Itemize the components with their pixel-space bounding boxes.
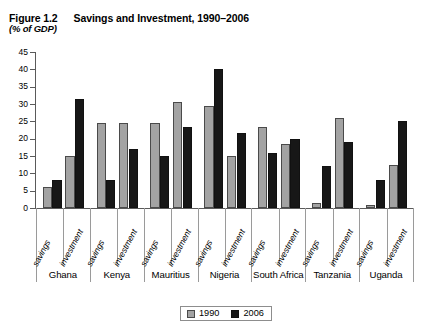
y-axis-tick-label: 15 [8, 152, 28, 161]
bar-1990 [204, 106, 213, 208]
bar-1990 [43, 187, 52, 208]
bar-2006 [268, 153, 277, 208]
legend-swatch-2006 [231, 310, 239, 318]
measure-label-investment: investment [165, 227, 193, 268]
y-axis-tick [30, 173, 35, 174]
bars-layer [36, 52, 413, 208]
bar-2006 [106, 180, 115, 208]
y-axis-tick-label: 30 [8, 100, 28, 109]
y-axis-tick-label-text: 10 [8, 169, 28, 178]
y-axis-tick-label-text: 15 [8, 152, 28, 161]
y-axis-tick [30, 104, 35, 105]
y-axis-tick [30, 52, 35, 53]
bar-2006 [376, 180, 385, 208]
group-label: Mauritius [144, 270, 198, 281]
group-label: Nigeria [198, 270, 252, 281]
y-axis-tick-label-text: 35 [8, 82, 28, 91]
y-axis-tick-label-text: 5 [8, 186, 28, 195]
bar-2006 [214, 69, 223, 208]
y-axis-tick-label: 10 [8, 169, 28, 178]
y-axis-tick [30, 208, 35, 209]
bar-1990 [312, 203, 321, 208]
y-axis-tick-label-text: 0 [8, 204, 28, 213]
y-axis-tick-label: 45 [8, 48, 28, 57]
bar-1990 [366, 205, 375, 208]
measure-label-savings: savings [138, 238, 160, 268]
y-axis-tick [30, 139, 35, 140]
legend-label-2006: 2006 [243, 309, 263, 318]
bar-2006 [129, 149, 138, 208]
y-axis-tick-label-text: 20 [8, 134, 28, 143]
group-label: South Africa [251, 270, 305, 281]
bar-2006 [344, 142, 353, 208]
y-axis-tick-label: 0 [8, 204, 28, 213]
legend-label-1990: 1990 [199, 309, 219, 318]
bar-2006 [290, 139, 299, 208]
y-axis-tick [30, 87, 35, 88]
bar-1990 [335, 118, 344, 208]
group-separator [413, 208, 414, 282]
measure-label-investment: investment [273, 227, 301, 268]
bar-1990 [227, 156, 236, 208]
legend-item-1990: 1990 [187, 309, 219, 318]
bar-1990 [150, 123, 159, 208]
measure-label-investment: investment [111, 227, 139, 268]
y-axis-tick-label: 35 [8, 82, 28, 91]
measure-label-savings: savings [299, 238, 321, 268]
chart-legend: 1990 2006 [180, 306, 272, 321]
y-axis-tick-label-text: 30 [8, 100, 28, 109]
group-label: Kenya [90, 270, 144, 281]
y-axis-tick [30, 121, 35, 122]
measure-label-investment: investment [58, 227, 86, 268]
bar-2006 [398, 121, 407, 208]
group-label: Uganda [359, 270, 413, 281]
bar-2006 [322, 166, 331, 208]
bar-2006 [75, 99, 84, 208]
bar-2006 [160, 156, 169, 208]
bar-1990 [281, 144, 290, 208]
bar-1990 [65, 156, 74, 208]
y-axis-tick [30, 156, 35, 157]
y-axis-tick-label: 40 [8, 65, 28, 74]
y-axis-tick-label: 25 [8, 117, 28, 126]
bar-1990 [173, 102, 182, 208]
measure-label-savings: savings [84, 238, 106, 268]
legend-swatch-1990 [187, 310, 195, 318]
bar-1990 [119, 123, 128, 208]
measure-label-investment: investment [219, 227, 247, 268]
bar-1990 [258, 127, 267, 208]
measure-label-savings: savings [192, 238, 214, 268]
y-axis-tick-label-text: 40 [8, 65, 28, 74]
y-axis-tick-label: 20 [8, 134, 28, 143]
chart-plot-area: 051015202530354045 savingsinvestmentsavi… [0, 0, 427, 330]
bar-1990 [389, 165, 398, 208]
y-axis-tick [30, 191, 35, 192]
measure-label-savings: savings [246, 238, 268, 268]
y-axis-tick-label-text: 45 [8, 48, 28, 57]
measure-label-savings: savings [353, 238, 375, 268]
y-axis-tick-label: 5 [8, 186, 28, 195]
y-axis-tick-label-text: 25 [8, 117, 28, 126]
figure-container: Figure 1.2Savings and Investment, 1990–2… [0, 0, 427, 330]
bar-2006 [183, 127, 192, 208]
bar-2006 [52, 180, 61, 208]
bar-1990 [97, 123, 106, 208]
group-label: Ghana [36, 270, 90, 281]
x-axis-line [35, 208, 413, 209]
measure-label-investment: investment [327, 227, 355, 268]
legend-item-2006: 2006 [231, 309, 263, 318]
measure-label-savings: savings [30, 238, 52, 268]
bar-2006 [237, 133, 246, 208]
y-axis-tick [30, 69, 35, 70]
measure-label-investment: investment [381, 227, 409, 268]
group-label: Tanzania [305, 270, 359, 281]
